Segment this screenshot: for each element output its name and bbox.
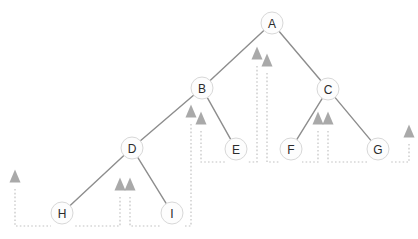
tree-node-label-h: H xyxy=(58,207,67,221)
marker-d-right-triangle-icon xyxy=(125,178,136,191)
tree-node-i[interactable]: I xyxy=(161,202,183,224)
tree-node-e[interactable]: E xyxy=(225,138,247,160)
tree-node-g[interactable]: G xyxy=(367,138,389,160)
marker-a-left-triangle-icon xyxy=(252,47,263,60)
path-left-of-h-dotted-line xyxy=(15,189,51,226)
tree-node-label-f: F xyxy=(287,143,294,157)
tree-edge-d-h xyxy=(70,156,123,205)
tree-edge-c-g xyxy=(335,98,370,140)
traversal-marker-triangles-layer xyxy=(10,47,415,191)
path-e-to-b-dotted-line xyxy=(201,131,225,162)
marker-right-of-g-triangle-icon xyxy=(404,125,415,138)
path-h-to-d-left-dotted-line xyxy=(73,197,120,226)
tree-node-label-g: G xyxy=(373,143,382,157)
tree-node-a[interactable]: A xyxy=(261,12,283,34)
path-e-up-to-a-dotted-line xyxy=(247,66,257,162)
tree-node-f[interactable]: F xyxy=(280,138,302,160)
marker-b-right-triangle-icon xyxy=(196,112,207,125)
tree-node-label-d: D xyxy=(128,142,137,156)
tree-node-label-i: I xyxy=(170,207,173,221)
path-f-up-to-a-dotted-line xyxy=(267,73,280,162)
tree-edge-d-i xyxy=(138,158,166,203)
tree-node-h[interactable]: H xyxy=(51,202,73,224)
tree-nodes-layer: ABCDEFGHI xyxy=(51,12,389,224)
marker-c-left-triangle-icon xyxy=(313,112,324,125)
tree-node-c[interactable]: C xyxy=(317,78,339,100)
marker-b-left-triangle-icon xyxy=(186,105,197,118)
tree-node-label-a: A xyxy=(268,17,276,31)
tree-edge-b-e xyxy=(208,98,231,139)
tree-node-label-c: C xyxy=(324,83,333,97)
tree-edge-b-d xyxy=(141,95,194,140)
tree-node-b[interactable]: B xyxy=(191,77,213,99)
marker-d-left-triangle-icon xyxy=(115,178,126,191)
path-g-to-c-dotted-line xyxy=(328,131,367,162)
tree-node-label-b: B xyxy=(198,82,206,96)
path-i-to-d-right-dotted-line xyxy=(130,197,161,226)
marker-c-right-triangle-icon xyxy=(323,112,334,125)
marker-a-right-triangle-icon xyxy=(262,54,273,67)
path-f-to-c-dotted-line xyxy=(302,131,318,162)
path-right-of-g-dotted-line xyxy=(389,144,409,162)
tree-node-d[interactable]: D xyxy=(121,137,143,159)
tree-diagram-svg: ABCDEFGHI xyxy=(0,0,418,239)
tree-edge-a-c xyxy=(279,32,320,80)
path-i-up-to-b-dotted-line xyxy=(183,124,191,226)
tree-diagram-canvas: ABCDEFGHI xyxy=(0,0,418,239)
marker-left-of-h-triangle-icon xyxy=(10,170,21,183)
tree-node-label-e: E xyxy=(232,143,240,157)
